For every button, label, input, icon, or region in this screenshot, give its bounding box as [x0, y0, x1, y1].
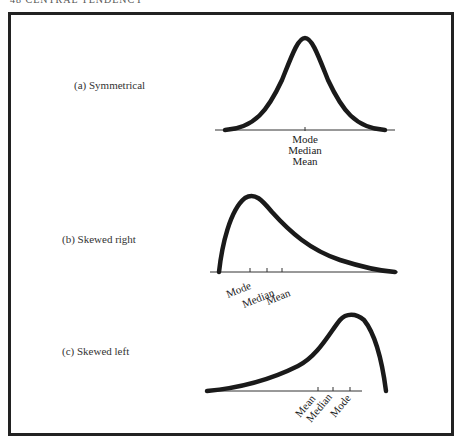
- panel-a-curve: [225, 38, 385, 130]
- distribution-figures: Mode Median Mean Mode Median Mean Mean M…: [0, 0, 459, 442]
- panel-c-mode-label: Mode: [327, 392, 353, 419]
- panel-c-curve: [207, 315, 386, 391]
- panel-a-mean-label: Mean: [292, 155, 318, 167]
- panel-c-chart: Mean Median Mode: [205, 315, 386, 425]
- panel-b-chart: Mode Median Mean: [210, 196, 398, 310]
- panel-b-curve: [219, 196, 395, 272]
- panel-a-chart: Mode Median Mean: [215, 38, 395, 167]
